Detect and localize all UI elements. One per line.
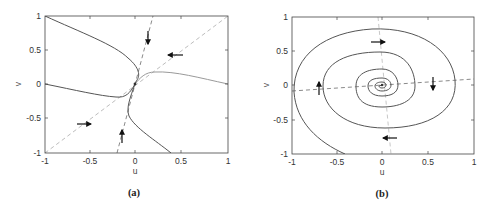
panel-b-xtick: 0: [380, 157, 385, 167]
panel-b-ytick: -1: [280, 149, 288, 159]
panel-a-ytick: -1: [33, 148, 41, 158]
fixed-point: [381, 84, 383, 86]
panel-b-xtick: 0.5: [422, 157, 434, 167]
panel-b-xtick: -0.5: [330, 157, 345, 167]
trajectory-2: [45, 84, 135, 97]
panel-b-plot-area: [292, 17, 474, 154]
panel-b: 1 0.5 0 -0.5 -1 -1 -0.5 0 0.5 1 u v (b): [261, 12, 477, 200]
panel-a-plot-area: [45, 16, 228, 153]
panel-b-xtick: -1: [288, 157, 296, 167]
trajectory-3: [128, 84, 171, 153]
panel-a-ytick: 0: [36, 79, 41, 89]
panel-a-ytick: 0.5: [29, 45, 41, 55]
panel-b-xtick: 1: [472, 157, 477, 167]
panel-b-xlabel: u: [380, 167, 385, 177]
panel-b-ylabel: v: [261, 82, 271, 87]
fixed-point: [134, 83, 137, 86]
panel-a-xtick: 0: [133, 156, 138, 166]
panel-b-ytick: -0.5: [273, 115, 288, 125]
panel-a-xtick: -0.5: [83, 156, 98, 166]
panel-a-xlabel: u: [133, 166, 138, 176]
spiral-trajectory: [294, 29, 455, 154]
panel-b-ytick: 0.5: [276, 46, 288, 56]
panel-a-xtick: -1: [41, 156, 49, 166]
panel-a-ytick: 1: [36, 11, 41, 21]
panel-a-xtick: 1: [226, 156, 231, 166]
trajectory-4: [135, 72, 228, 84]
panel-b-ytick: 1: [283, 12, 288, 22]
panel-a-ytick: -0.5: [26, 113, 41, 123]
panel-a-caption: (a): [128, 187, 141, 199]
nullcline-diagonal: [45, 16, 228, 153]
panel-b-caption: (b): [376, 188, 389, 200]
panel-a: 1 0.5 0 -0.5 -1 -1 -0.5 0 0.5 1 u v (a): [13, 11, 231, 199]
panel-a-xtick: 0.5: [175, 156, 187, 166]
panel-a-ylabel: v: [13, 81, 23, 86]
panel-b-ytick: 0: [283, 80, 288, 90]
figure: 1 0.5 0 -0.5 -1 -1 -0.5 0 0.5 1 u v (a): [0, 0, 493, 207]
trajectory-1: [45, 16, 139, 84]
